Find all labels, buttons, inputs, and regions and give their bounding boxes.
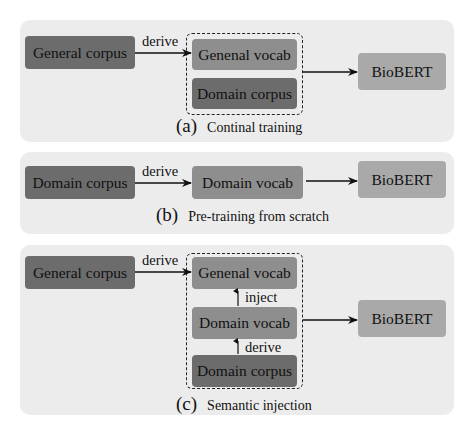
- derive-inner-label-c: derive: [245, 339, 281, 356]
- caption-text-b: Pre-training from scratch: [188, 209, 329, 225]
- general-vocab-box-c: Genenal vocab: [192, 257, 297, 289]
- domain-corpus-box-a: Domain corpus: [192, 78, 297, 109]
- biobert-box-b: BioBERT: [358, 161, 446, 198]
- inject-label-c: inject: [245, 289, 277, 306]
- domain-vocab-box-c: Domain vocab: [192, 307, 297, 339]
- caption-b: (b) Pre-training from scratch: [156, 204, 329, 226]
- biobert-box-c: BioBERT: [358, 300, 446, 337]
- domain-corpus-box-b: Domain corpus: [25, 166, 135, 199]
- derive-label-c: derive: [142, 252, 178, 269]
- caption-c: (c) Semantic injection: [176, 393, 312, 415]
- caption-a: (a) Continal training: [176, 115, 302, 137]
- biobert-box-a: BioBERT: [358, 53, 446, 90]
- caption-tag-c: (c): [176, 393, 197, 415]
- caption-text-c: Semantic injection: [207, 398, 312, 414]
- derive-label-b: derive: [142, 163, 178, 180]
- caption-tag-a: (a): [176, 115, 197, 137]
- caption-tag-b: (b): [156, 204, 178, 226]
- domain-vocab-box-b: Domain vocab: [192, 166, 303, 199]
- derive-label-a: derive: [142, 33, 178, 50]
- caption-text-a: Continal training: [207, 120, 302, 136]
- general-corpus-box-c: General corpus: [25, 256, 135, 289]
- general-vocab-box-a: Genenal vocab: [192, 39, 297, 70]
- domain-corpus-box-c: Domain corpus: [192, 355, 297, 387]
- general-corpus-box-a: General corpus: [25, 36, 135, 69]
